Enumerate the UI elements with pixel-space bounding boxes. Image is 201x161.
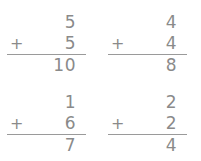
plus-operator-icon: + [111, 113, 125, 134]
answer: 8 [166, 55, 177, 76]
answer-row: 4 [115, 134, 177, 156]
addition-worksheet: 5 + 5 10 4 + 4 [0, 0, 201, 161]
sum-stack: 1 + 6 7 [14, 92, 76, 156]
addition-problem: 5 + 5 10 [0, 0, 100, 80]
bottom-addend: 6 [65, 113, 76, 134]
bottom-addend: 2 [166, 113, 177, 134]
answer-row: 8 [115, 54, 177, 76]
answer: 10 [53, 55, 76, 76]
answer-row: 7 [14, 134, 76, 156]
top-addend-row: 5 [14, 12, 76, 33]
bottom-addend-row: + 4 [115, 33, 177, 54]
top-addend: 5 [65, 12, 76, 33]
answer: 7 [65, 135, 76, 156]
plus-operator-icon: + [111, 33, 125, 54]
bottom-addend: 5 [65, 33, 76, 54]
answer: 4 [166, 135, 177, 156]
bottom-addend-row: + 2 [115, 113, 177, 134]
top-addend: 1 [65, 92, 76, 113]
addition-problem: 4 + 4 8 [100, 0, 201, 80]
answer-row: 10 [14, 54, 76, 76]
bottom-addend: 4 [166, 33, 177, 54]
top-addend-row: 1 [14, 92, 76, 113]
plus-operator-icon: + [10, 113, 24, 134]
top-addend: 4 [166, 12, 177, 33]
addition-problem: 2 + 2 4 [100, 80, 201, 161]
problem-grid: 5 + 5 10 4 + 4 [0, 0, 201, 161]
sum-stack: 4 + 4 8 [115, 12, 177, 76]
top-addend-row: 4 [115, 12, 177, 33]
top-addend-row: 2 [115, 92, 177, 113]
sum-stack: 2 + 2 4 [115, 92, 177, 156]
plus-operator-icon: + [10, 33, 24, 54]
sum-stack: 5 + 5 10 [14, 12, 76, 76]
bottom-addend-row: + 6 [14, 113, 76, 134]
top-addend: 2 [166, 92, 177, 113]
bottom-addend-row: + 5 [14, 33, 76, 54]
addition-problem: 1 + 6 7 [0, 80, 100, 161]
